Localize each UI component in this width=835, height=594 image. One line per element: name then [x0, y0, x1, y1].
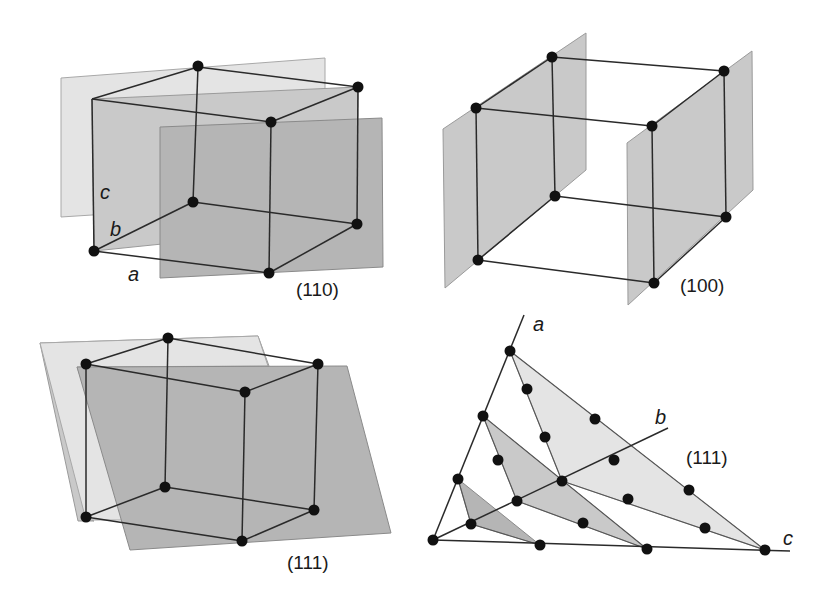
- axis-label-c: c: [100, 181, 110, 203]
- axis-label-b: b: [110, 218, 121, 240]
- atom-origin: [428, 535, 439, 546]
- atom: [647, 121, 658, 132]
- atom: [719, 66, 730, 77]
- crystal-planes-figure: c b a (110): [0, 0, 835, 594]
- atom: [160, 482, 171, 493]
- atom: [453, 474, 464, 485]
- axis-label-a: a: [533, 313, 544, 335]
- atom: [240, 387, 251, 398]
- panel-110: c b a (110): [61, 58, 383, 300]
- atom: [466, 519, 477, 530]
- axis-label-a: a: [128, 263, 139, 285]
- atom: [700, 523, 711, 534]
- atom: [540, 432, 551, 443]
- atom: [264, 268, 275, 279]
- plane-label-110: (110): [296, 279, 339, 300]
- atom: [473, 255, 484, 266]
- atom: [760, 545, 771, 556]
- axis-c: [433, 540, 790, 551]
- atom: [535, 540, 546, 551]
- atom: [193, 61, 204, 72]
- atom: [609, 455, 620, 466]
- plane-100-right: [627, 51, 753, 305]
- atom: [557, 476, 568, 487]
- axis-label-b: b: [655, 406, 666, 428]
- atom: [522, 384, 533, 395]
- atom: [313, 359, 324, 370]
- atom: [89, 246, 100, 257]
- atom: [352, 219, 363, 230]
- atom: [81, 512, 92, 523]
- atom: [512, 496, 523, 507]
- atom: [471, 103, 482, 114]
- panel-111-axes: a b c (111): [428, 313, 794, 556]
- atom: [266, 117, 277, 128]
- atom: [478, 411, 489, 422]
- atom: [188, 197, 199, 208]
- atom: [547, 52, 558, 63]
- panel-111-cube: (111): [40, 333, 391, 574]
- atom: [309, 505, 320, 516]
- atom: [237, 536, 248, 547]
- plane-label-111-axes: (111): [686, 447, 728, 468]
- atom: [578, 518, 589, 529]
- atom: [642, 544, 653, 555]
- plane-label-100: (100): [680, 275, 724, 296]
- atom: [721, 212, 732, 223]
- atom: [649, 278, 660, 289]
- atom: [550, 191, 561, 202]
- atom: [163, 333, 174, 344]
- plane-label-111-cube: (111): [287, 552, 329, 573]
- panel-100: (100): [443, 33, 753, 305]
- plane-100-left: [443, 33, 586, 288]
- atom: [493, 455, 504, 466]
- atom: [505, 346, 516, 357]
- atom: [623, 494, 634, 505]
- atom: [81, 359, 92, 370]
- axis-label-c: c: [783, 527, 793, 549]
- atom: [353, 82, 364, 93]
- atom: [590, 414, 601, 425]
- atom: [684, 485, 695, 496]
